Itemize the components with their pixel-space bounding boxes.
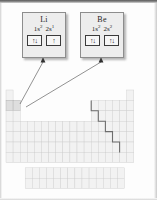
callout-lithium-symbol: Li [23, 15, 65, 24]
beryllium-orbital-diagram: ↑↓ ↑↓ [81, 35, 123, 46]
beryllium-term-1-electrons: 2 [98, 24, 101, 29]
lithium-term-2-electrons: 1 [52, 24, 55, 29]
callout-lithium[interactable]: Li 1s22s1 ↑↓ ↑ [22, 12, 66, 58]
lithium-orbital-diagram: ↑↓ ↑ [23, 35, 65, 46]
leader-line-lithium [20, 62, 43, 104]
figure-container: Li 1s22s1 ↑↓ ↑ Be 1s22s2 ↑↓ ↑↓ [0, 0, 157, 200]
beryllium-orbital-box-2s: ↑↓ [104, 35, 119, 46]
beryllium-term-2-electrons: 2 [110, 24, 113, 29]
callout-lithium-configuration: 1s22s1 [23, 25, 65, 33]
callout-beryllium[interactable]: Be 1s22s2 ↑↓ ↑↓ [80, 12, 124, 58]
beryllium-orbital-box-1s: ↑↓ [85, 35, 100, 46]
lithium-term-1-electrons: 2 [40, 24, 43, 29]
callout-beryllium-symbol: Be [81, 15, 123, 24]
lithium-orbital-box-2s: ↑ [46, 35, 61, 46]
callout-beryllium-configuration: 1s22s2 [81, 25, 123, 33]
lithium-orbital-box-1s: ↑↓ [27, 35, 42, 46]
leader-line-beryllium [26, 62, 101, 107]
